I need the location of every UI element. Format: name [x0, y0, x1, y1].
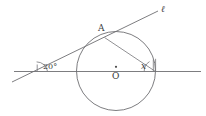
chord-a-to-right [105, 38, 156, 72]
label-point-a: A [97, 23, 105, 33]
center-dot [115, 66, 117, 68]
geometry-canvas: ℓ A O 20° x [0, 0, 206, 116]
label-angle-x: x [141, 61, 146, 71]
label-center-o: O [112, 71, 119, 81]
label-angle-20: 20° [43, 62, 57, 71]
label-line-ell: ℓ [161, 4, 165, 14]
geometry-figure: ℓ A O 20° x [0, 0, 206, 116]
